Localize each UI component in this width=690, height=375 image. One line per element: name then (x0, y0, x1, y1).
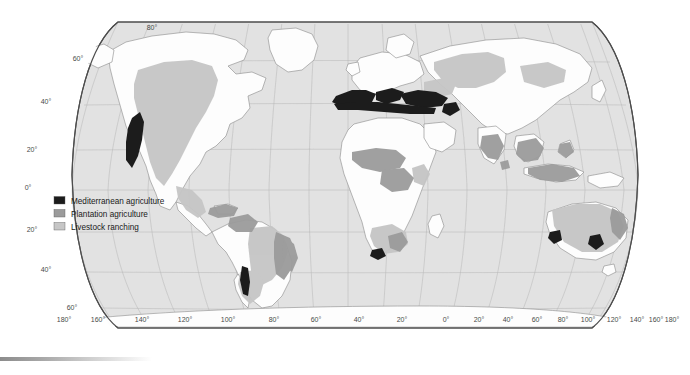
longitude-label: 100° (581, 316, 596, 323)
longitude-label: 100° (221, 316, 236, 323)
latitude-label: 20° (27, 226, 38, 233)
world-map-svg: 80° 60° 40° 20° 0° 20° 40° 60° 180° 160°… (0, 0, 690, 350)
longitude-label: 160° (91, 316, 106, 323)
longitude-label: 80° (558, 316, 569, 323)
longitude-label: 140° (135, 316, 150, 323)
world-map-figure: 80° 60° 40° 20° 0° 20° 40° 60° 180° 160°… (0, 0, 690, 350)
longitude-label: 60° (532, 316, 543, 323)
longitude-label: 40° (503, 316, 514, 323)
longitude-label: 20° (397, 316, 408, 323)
latitude-label: 60° (73, 55, 84, 62)
latitude-label: 0° (25, 184, 32, 191)
longitude-label: 120° (607, 316, 622, 323)
latitude-label: 80° (147, 24, 158, 31)
legend-label-mediterranean: Mediterranean agriculture (71, 197, 165, 206)
legend-swatch-mediterranean (54, 197, 65, 205)
map-page: 80° 60° 40° 20° 0° 20° 40° 60° 180° 160°… (0, 0, 690, 375)
longitude-label: 40° (354, 316, 365, 323)
longitude-label: 80° (269, 316, 280, 323)
legend-label-ranching: Livestock ranching (71, 223, 139, 232)
legend-swatch-ranching (54, 223, 65, 231)
longitude-label: 20° (474, 316, 485, 323)
latitude-label: 40° (41, 266, 52, 273)
legend-swatch-plantation (54, 210, 65, 218)
legend-label-plantation: Plantation agriculture (71, 210, 148, 219)
longitude-label: 180° (57, 316, 72, 323)
land-new-zealand (642, 246, 666, 278)
footer-gradient-rule (0, 357, 152, 361)
longitude-label: 140° (630, 316, 645, 323)
latitude-label: 40° (41, 98, 52, 105)
longitude-label: 120° (178, 316, 193, 323)
longitude-label: 180° (665, 316, 680, 323)
longitude-label: 60° (311, 316, 322, 323)
latitude-label: 20° (27, 146, 38, 153)
latitude-label: 60° (67, 304, 78, 311)
longitude-label: 0° (443, 316, 450, 323)
longitude-label: 160° (649, 316, 664, 323)
